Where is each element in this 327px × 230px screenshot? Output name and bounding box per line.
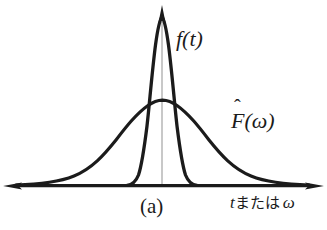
figure-caption: (a) [140,196,163,217]
circumflex-icon: ˆ [234,97,241,117]
curve-label-f-hat-omega: Fˆ(ω) [231,110,275,132]
y-axis [158,5,166,186]
x-axis-label-var2: ω [280,193,295,212]
f-hat-argument: (ω) [244,108,274,133]
figure-panel: f(t) Fˆ(ω) tまたはω (a) [0,0,327,230]
x-axis-label-conjunction: または [235,194,280,212]
curve-label-f-t: f(t) [176,28,203,50]
f-hat-base-wrap: Fˆ [231,110,244,132]
x-axis-label: tまたはω [230,194,295,211]
